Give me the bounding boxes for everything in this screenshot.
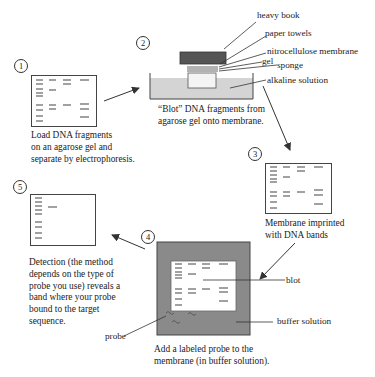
- step3-membrane: [266, 164, 332, 214]
- caption-line: Add a labeled probe to the: [154, 344, 269, 356]
- caption-line: on an agarose gel and: [31, 142, 135, 154]
- caption-line: “Blot” DNA fragments from: [158, 104, 265, 116]
- caption-line: separate by electrophoresis.: [31, 154, 135, 166]
- step3-caption: Membrane imprinted with DNA bands: [265, 218, 344, 242]
- label-blot: blot: [286, 275, 300, 286]
- step-number-2: 2: [136, 36, 150, 50]
- step5-detection: [31, 195, 96, 246]
- caption-line: Membrane imprinted: [265, 218, 344, 230]
- step1-gel: [32, 76, 97, 127]
- caption-line: sequence.: [29, 316, 120, 328]
- arrow-1-to-2: [104, 88, 139, 101]
- step-number-1: 1: [14, 59, 28, 73]
- step4-probe-tray: [124, 242, 285, 336]
- caption-line: bound to the target: [29, 304, 120, 316]
- arrow-3-to-4: [260, 243, 295, 279]
- label-probe: probe: [105, 331, 126, 342]
- label-sponge: sponge: [277, 60, 303, 71]
- label-heavy-book: heavy book: [257, 10, 300, 21]
- step-number-3: 3: [248, 147, 262, 161]
- heavy-book: [180, 52, 226, 64]
- caption-line: depends on the type of: [29, 269, 120, 281]
- sponge: [188, 73, 216, 88]
- arrow-2-to-3: [263, 86, 290, 150]
- label-buffer-solution: buffer solution: [277, 316, 331, 327]
- caption-line: with DNA bands: [265, 230, 344, 242]
- label-gel: gel: [262, 56, 273, 67]
- caption-line: agarose gel onto membrane.: [158, 116, 265, 128]
- caption-line: band where your probe: [29, 292, 120, 304]
- label-alkaline-solution: alkaline solution: [267, 75, 328, 86]
- step4-caption: Add a labeled probe to the membrane (in …: [154, 344, 269, 368]
- caption-line: membrane (in buffer solution).: [154, 356, 269, 368]
- step2-caption: “Blot” DNA fragments from agarose gel on…: [158, 104, 265, 128]
- label-nitrocellulose-membrane: nitrocellulose membrane: [267, 46, 358, 57]
- step-number-5: 5: [13, 180, 27, 194]
- step1-caption: Load DNA fragments on an agarose gel and…: [31, 130, 135, 165]
- caption-line: Detection (the method: [29, 257, 120, 269]
- caption-line: Load DNA fragments: [31, 130, 135, 142]
- step5-caption: Detection (the method depends on the typ…: [29, 257, 120, 328]
- caption-line: probe you use) reveals a: [29, 281, 120, 293]
- step-number-4: 4: [141, 230, 155, 244]
- label-paper-towels: paper towels: [265, 28, 312, 39]
- step2-blot-setup: [150, 22, 277, 99]
